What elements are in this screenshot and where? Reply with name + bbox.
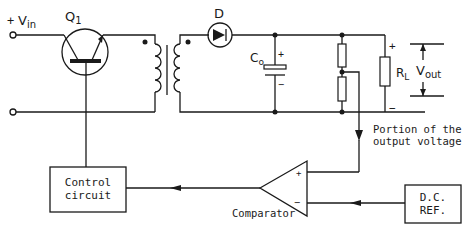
transistor-envelope: [62, 29, 108, 75]
divider-resistor-lower: [338, 77, 346, 101]
q1-label: Q1: [65, 9, 82, 26]
circuit-diagram: + Vin Q1 D: [0, 0, 471, 234]
primary-dot: [143, 40, 148, 45]
voltage-divider: [307, 33, 363, 173]
divider-resistor-upper: [338, 44, 346, 67]
dc-ref-label-line2: REF.: [420, 204, 447, 217]
dc-ref-label-line1: D.C.: [420, 191, 447, 204]
feedback-arrow-icon: [355, 130, 363, 141]
transistor-collector: [64, 35, 78, 60]
control-circuit-block: Control circuit: [50, 167, 126, 212]
vout-arrow-down-icon: [420, 89, 426, 96]
rl-body: [380, 57, 390, 86]
out-plus: +: [389, 40, 396, 53]
vin-minus-terminal: [10, 109, 16, 115]
vin-label: Vin: [18, 13, 36, 30]
portion-label-line2: output voltage: [373, 135, 462, 147]
transistor-q1: Q1: [62, 9, 108, 167]
vin-plus-sign: +: [7, 14, 14, 28]
vin-plus-terminal: [10, 32, 16, 38]
primary-winding: [155, 44, 161, 92]
cap-plate-positive: [264, 65, 286, 69]
diode-label: D: [214, 6, 224, 21]
secondary-top-lead: [180, 35, 209, 44]
control-input-arrow-icon: [170, 185, 181, 191]
vout-label: Vout: [416, 63, 441, 80]
control-label-line1: Control: [65, 176, 111, 189]
dc-ref-block: D.C. REF.: [405, 185, 461, 223]
out-minus: −: [389, 102, 396, 115]
input-terminals: + Vin: [7, 13, 36, 115]
comparator-label: Comparator: [232, 207, 295, 219]
portion-label-line1: Portion of the: [373, 123, 462, 135]
capacitor-co: Co + −: [250, 33, 286, 115]
co-minus: −: [278, 79, 284, 90]
ref-arrow-icon: [350, 200, 361, 206]
control-label-line2: circuit: [65, 189, 111, 202]
comparator-plus: +: [296, 168, 302, 178]
co-label: Co: [250, 51, 264, 67]
rl-label: RL: [396, 66, 409, 82]
co-plus: +: [278, 49, 284, 60]
vout-arrow-up-icon: [420, 44, 426, 51]
secondary-winding: [174, 44, 180, 92]
diode-triangle-icon: [213, 29, 225, 41]
comparator: + − Comparator: [232, 161, 307, 219]
secondary-dot: [186, 40, 191, 45]
diode-d: D: [208, 6, 232, 47]
